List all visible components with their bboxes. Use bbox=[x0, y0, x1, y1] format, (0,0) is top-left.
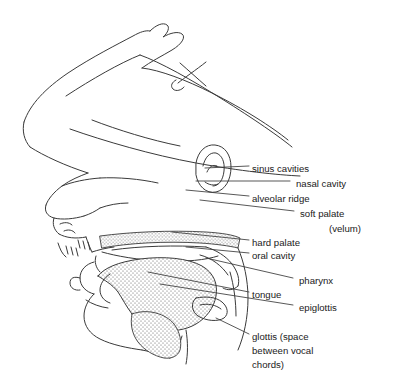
label-glottis: glottis (space bbox=[252, 331, 309, 343]
label-oral-cavity: oral cavity bbox=[252, 250, 295, 262]
hard-palate-mass bbox=[100, 231, 240, 250]
label-soft-palate: soft palate bbox=[300, 208, 344, 220]
label-sinus-cavities: sinus cavities bbox=[252, 163, 309, 175]
label-tongue: tongue bbox=[252, 289, 281, 301]
nose bbox=[45, 173, 158, 238]
label-glottis-line-2: between vocal bbox=[252, 345, 313, 357]
label-alveolar-ridge: alveolar ridge bbox=[252, 193, 310, 205]
anatomical-line-drawing bbox=[0, 0, 396, 386]
label-epiglottis: epiglottis bbox=[299, 302, 337, 314]
leader-alveolar-ridge bbox=[186, 190, 249, 196]
label-nasal-cavity: nasal cavity bbox=[296, 178, 346, 190]
ear bbox=[196, 145, 231, 192]
label-hard-palate: hard palate bbox=[252, 237, 300, 249]
label-pharynx: pharynx bbox=[299, 275, 333, 287]
figure-canvas: sinus cavities nasal cavity alveolar rid… bbox=[0, 0, 396, 386]
leader-glottis bbox=[216, 318, 249, 334]
label-glottis-line-3: chords) bbox=[252, 359, 284, 371]
label-velum: (velum) bbox=[329, 223, 361, 235]
skull-cranium bbox=[23, 24, 300, 176]
